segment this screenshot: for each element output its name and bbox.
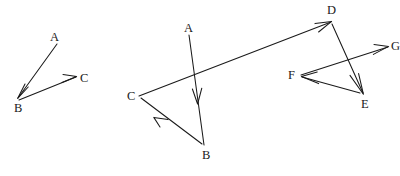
figure-right (301, 24, 389, 94)
vector-middle-cd-shaft (139, 22, 331, 96)
vector-middle-bc-shaft (141, 98, 202, 144)
vector-right-f-to-g (301, 45, 389, 75)
vector-left-bc-arrowhead (62, 75, 77, 83)
vector-middle-bc-arrowhead (154, 117, 168, 127)
label-middle-point-a: A (184, 22, 193, 35)
vector-middle-c-to-d (139, 21, 332, 96)
vector-left-a-to-b (18, 44, 57, 98)
label-left-point-c: C (80, 72, 88, 85)
vector-left-ab-shaft (18, 44, 57, 98)
label-right-point-e: E (361, 98, 369, 111)
label-left-point-a: A (50, 31, 59, 44)
diagram-canvas: A B C A B C D E F G (0, 0, 400, 176)
label-right-point-d: D (327, 4, 336, 17)
label-left-point-b: B (14, 102, 22, 115)
vector-right-ef-shaft (302, 77, 360, 93)
vector-middle-a-to-b (189, 35, 204, 145)
figure-middle (139, 21, 332, 145)
figure-left (18, 44, 77, 100)
label-right-point-g: G (391, 40, 400, 53)
label-middle-point-b: B (202, 149, 210, 162)
label-right-point-f: F (288, 69, 295, 82)
vector-right-de-shaft (332, 24, 363, 93)
vector-right-d-to-e (332, 24, 363, 94)
label-middle-point-c: C (127, 90, 135, 103)
vector-middle-b-to-c (141, 98, 202, 144)
vector-right-e-to-f (301, 72, 360, 93)
vector-diagram-svg (0, 0, 400, 176)
